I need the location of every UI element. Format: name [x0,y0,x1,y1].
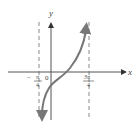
function-curve-top-arrow [85,28,86,36]
y-axis-label: y [48,8,53,18]
right-asymptote-denominator: 4 [87,82,90,88]
left-asymptote-denominator: 4 [36,82,39,88]
function-curve [42,30,86,116]
origin-label: 0 [45,74,49,82]
left-asymptote-sign: − [27,74,31,82]
right-asymptote-numerator: 3π [83,74,91,80]
x-axis-label: x [127,67,132,77]
function-graph-figure: y x 0 − π 4 3π 4 [0,0,136,131]
graph-canvas: y x 0 − π 4 3π 4 [0,0,136,131]
